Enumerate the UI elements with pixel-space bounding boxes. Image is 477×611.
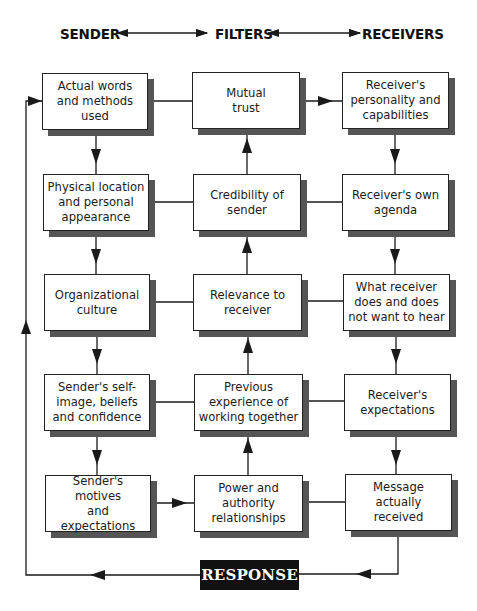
header-sender: SENDER bbox=[60, 26, 120, 42]
box-label: Credibility of sender bbox=[210, 188, 284, 218]
filter-box-power-authority: Power and authority relationships bbox=[194, 475, 303, 532]
sender-box-actual-words: Actual words and methods used bbox=[42, 73, 148, 130]
box-label: Organizational culture bbox=[55, 288, 139, 318]
box-label: Receiver's own agenda bbox=[352, 188, 439, 218]
filter-box-mutual-trust: Mutual trust bbox=[192, 72, 300, 129]
header-receivers: RECEIVERS bbox=[362, 26, 444, 42]
receiver-box-personality: Receiver's personality and capabilities bbox=[342, 72, 449, 129]
sender-box-self-image: Sender's self- image, beliefs and confid… bbox=[44, 374, 150, 431]
receiver-box-message-received: Message actually received bbox=[345, 474, 452, 531]
header-filters: FILTERS bbox=[215, 26, 273, 42]
response-label: RESPONSE bbox=[201, 566, 298, 584]
box-label: Receiver's personality and capabilities bbox=[350, 78, 440, 123]
box-label: Actual words and methods used bbox=[57, 79, 133, 124]
receiver-box-expectations: Receiver's expectations bbox=[344, 374, 451, 431]
sender-box-motives: Sender's motives and expectations bbox=[45, 475, 151, 532]
box-label: Mutual trust bbox=[226, 86, 266, 116]
box-label: Sender's motives and expectations bbox=[49, 474, 147, 534]
sender-box-organizational-culture: Organizational culture bbox=[44, 274, 150, 331]
box-label: Physical location and personal appearanc… bbox=[48, 180, 145, 225]
box-label: Receiver's expectations bbox=[360, 388, 435, 418]
communication-filters-diagram: SENDER FILTERS RECEIVERS Actual words an… bbox=[0, 0, 477, 611]
box-label: Relevance to receiver bbox=[210, 288, 285, 318]
response-box: RESPONSE bbox=[200, 560, 299, 590]
box-label: Message actually received bbox=[373, 480, 424, 525]
filter-box-relevance: Relevance to receiver bbox=[193, 274, 302, 331]
box-label: Sender's self- image, beliefs and confid… bbox=[53, 380, 142, 425]
filter-box-previous-experience: Previous experience of working together bbox=[194, 374, 303, 431]
box-label: Previous experience of working together bbox=[199, 380, 299, 425]
box-label: Power and authority relationships bbox=[211, 481, 285, 526]
receiver-box-own-agenda: Receiver's own agenda bbox=[342, 174, 449, 231]
filter-box-credibility: Credibility of sender bbox=[193, 174, 301, 231]
receiver-box-want-to-hear: What receiver does and does not want to … bbox=[343, 274, 450, 331]
box-label: What receiver does and does not want to … bbox=[348, 280, 445, 325]
sender-box-physical-location: Physical location and personal appearanc… bbox=[43, 174, 149, 231]
